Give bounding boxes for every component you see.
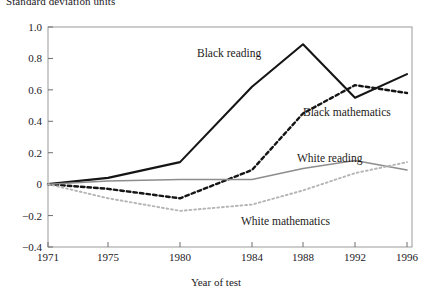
x-tick-label: 1984 [241,251,263,263]
chart-figure: Standard deviation units Year of test 19… [0,0,432,297]
series-line-white-reading [48,161,407,185]
x-tick-label: 1996 [396,251,418,263]
line-chart-plot [0,0,432,297]
y-tick-label: −0.2 [4,210,42,222]
y-tick-label: −0.4 [4,241,42,253]
x-axis-title: Year of test [0,276,432,288]
x-tick-label: 1992 [344,251,366,263]
series-annotation: White reading [297,152,362,164]
series-annotation: Black reading [197,47,261,59]
plot-frame [48,27,412,247]
x-tick-label: 1988 [292,251,314,263]
y-tick-label: 0 [4,178,42,190]
x-tick-label: 1980 [169,251,191,263]
series-line-white-mathematics [48,162,407,211]
series-annotation: Black mathematics [303,106,391,118]
x-tick-label: 1975 [97,251,119,263]
series-annotation: White mathematics [241,215,330,227]
y-tick-label: 0.8 [4,52,42,64]
y-tick-label: 0.2 [4,147,42,159]
y-tick-label: 1.0 [4,21,42,33]
y-tick-label: 0.4 [4,115,42,127]
y-tick-label: 0.6 [4,84,42,96]
